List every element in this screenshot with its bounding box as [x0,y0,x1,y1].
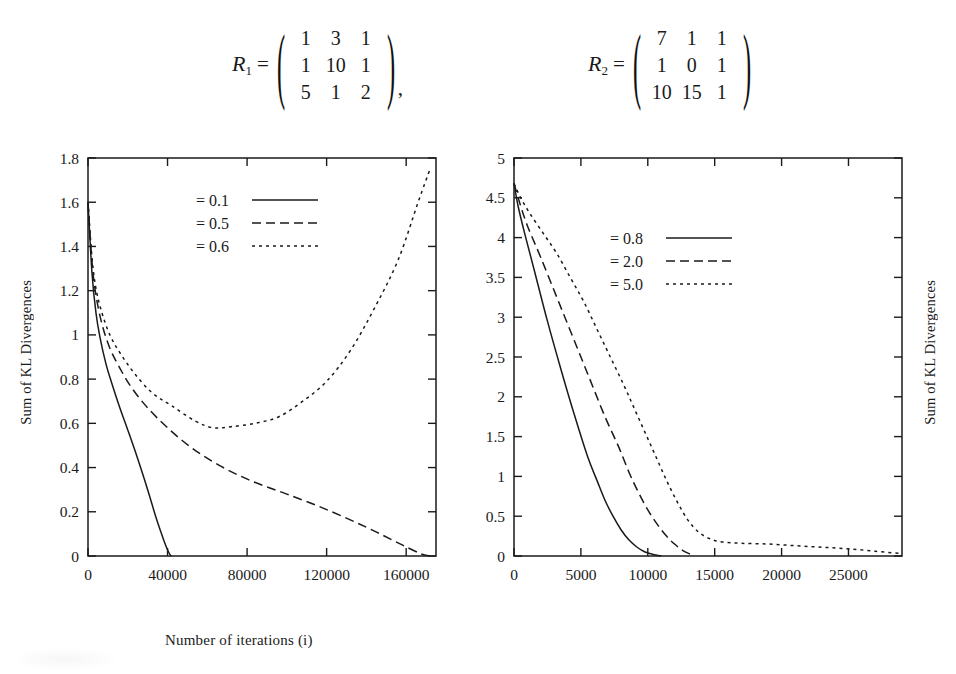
legend-label: = 2.0 [610,253,643,270]
plot-frame [514,158,902,556]
matrix-cell: 5 [291,82,321,102]
y-tick-label: 0 [497,548,505,565]
data-series-curve [88,202,430,556]
matrix-cell: 1 [647,55,677,75]
matrix-r1-comma: , [396,76,403,105]
legend-label: = 0.8 [610,230,643,247]
data-series-curve [514,183,691,554]
y-tick-label: 0 [71,548,79,565]
matrix-cell: 1 [677,28,707,48]
y-tick-label: 1.4 [60,238,80,255]
left-paren-icon: ( [277,22,285,107]
matrix-cell: 15 [677,82,707,102]
y-tick-label: 3.5 [486,269,506,286]
matrix-cell: 1 [707,82,737,102]
matrix-row: 7 1 1 [647,24,737,51]
matrix-r2-name: R2 [588,53,611,77]
legend-label: = 0.1 [196,192,229,209]
y-tick-label: 0.4 [60,459,80,476]
data-series-curve [514,183,902,553]
matrix-cell: 7 [647,28,677,48]
chart-right-canvas: 00.511.522.533.544.550500010000150002000… [452,120,956,630]
x-tick-label: 80000 [228,566,267,583]
y-tick-label: 4 [497,229,505,246]
y-tick-label: 3 [497,309,505,326]
chart-left-x-axis-title: Number of iterations (i) [165,632,313,649]
plot-frame [88,158,436,556]
data-series-curve [88,202,172,556]
matrix-r1: R1 = ( 1 3 1 1 10 1 5 1 2 ) , [232,24,403,105]
y-tick-label: 1 [497,468,505,485]
y-tick-label: 0.8 [60,371,80,388]
x-tick-label: 10000 [628,566,667,583]
y-tick-label: 0.2 [60,503,79,520]
y-tick-label: 0.6 [60,415,80,432]
matrix-row: 1 3 1 [291,24,381,51]
y-tick-label: 1.6 [60,194,80,211]
chart-right: 00.511.522.533.544.550500010000150002000… [452,120,956,674]
matrix-r2-subscript: 2 [601,62,608,77]
matrix-row: 5 1 2 [291,78,381,105]
x-tick-label: 0 [84,566,92,583]
matrix-cell: 1 [321,82,351,102]
x-tick-label: 40000 [148,566,187,583]
left-paren-icon: ( [633,22,641,107]
x-tick-label: 20000 [762,566,801,583]
right-paren-icon: ) [743,22,751,107]
chart-right-y-axis-title: Sum of KL Divergences [922,280,939,425]
matrix-cell: 2 [351,82,381,102]
matrix-r2-equals: = [611,52,632,77]
matrix-cell: 1 [707,28,737,48]
matrix-r1-equals: = [255,52,276,77]
x-tick-label: 0 [510,566,518,583]
y-tick-label: 1 [71,326,79,343]
legend-label: = 5.0 [610,276,643,293]
x-tick-label: 120000 [303,566,350,583]
chart-left: 00.20.40.60.811.21.41.61.804000080000120… [0,120,478,674]
figures-row: 00.20.40.60.811.21.41.61.804000080000120… [0,120,956,674]
legend-label: = 0.6 [196,238,229,255]
matrix-cell: 1 [351,55,381,75]
matrix-cell: 1 [707,55,737,75]
x-tick-label: 25000 [829,566,868,583]
matrix-row: 1 10 1 [291,51,381,78]
matrix-r1-body: 1 3 1 1 10 1 5 1 2 [286,24,386,105]
y-tick-label: 5 [497,150,505,167]
matrix-row: 10 15 1 [647,78,737,105]
matrix-cell: 1 [291,28,321,48]
matrix-row: 1 0 1 [647,51,737,78]
y-tick-label: 1.2 [60,282,79,299]
x-tick-label: 160000 [383,566,430,583]
chart-left-canvas: 00.20.40.60.811.21.41.61.804000080000120… [0,120,478,630]
matrix-cell: 10 [321,55,351,75]
legend-label: = 0.5 [196,215,229,232]
y-tick-label: 0.5 [486,508,506,525]
y-tick-label: 1.8 [60,150,80,167]
right-paren-icon: ) [387,22,395,107]
y-tick-label: 4.5 [486,189,506,206]
matrix-r2-body: 7 1 1 1 0 1 10 15 1 [642,24,742,105]
x-tick-label: 15000 [695,566,734,583]
matrix-r1-name: R1 [232,53,255,77]
matrix-cell: 0 [677,55,707,75]
matrix-r1-subscript: 1 [245,62,252,77]
matrix-cell: 10 [647,82,677,102]
matrix-cell: 3 [321,28,351,48]
matrix-r2: R2 = ( 7 1 1 1 0 1 10 15 1 ) [588,24,752,105]
y-tick-label: 1.5 [486,428,506,445]
chart-left-y-axis-title: Sum of KL Divergences [18,280,35,425]
y-tick-label: 2 [497,388,505,405]
matrix-cell: 1 [291,55,321,75]
matrix-cell: 1 [351,28,381,48]
x-tick-label: 5000 [565,566,596,583]
y-tick-label: 2.5 [486,349,506,366]
data-series-curve [88,169,430,428]
matrix-equation-row: R1 = ( 1 3 1 1 10 1 5 1 2 ) , R2 = ( [0,8,956,120]
